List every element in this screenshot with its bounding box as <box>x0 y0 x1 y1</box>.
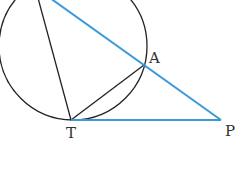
label-A: A <box>148 49 160 67</box>
diagram-canvas: A T P <box>0 0 240 186</box>
chord-top-to-T <box>38 0 71 120</box>
circle <box>0 0 147 120</box>
label-P: P <box>225 122 235 140</box>
label-T: T <box>66 124 76 142</box>
secant-line <box>50 0 221 120</box>
